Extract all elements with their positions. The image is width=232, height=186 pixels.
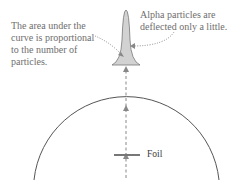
foil-label: Foil bbox=[147, 148, 162, 160]
deflection-pointer bbox=[133, 32, 174, 46]
beam-arrow-icon bbox=[123, 66, 129, 72]
deflection-annotation: Alpha particles are deflected only a lit… bbox=[140, 9, 232, 33]
area-annotation: The area under the curve is proportional… bbox=[11, 20, 101, 68]
distribution-peak bbox=[112, 10, 140, 65]
beam-arrow-icon bbox=[123, 105, 129, 111]
